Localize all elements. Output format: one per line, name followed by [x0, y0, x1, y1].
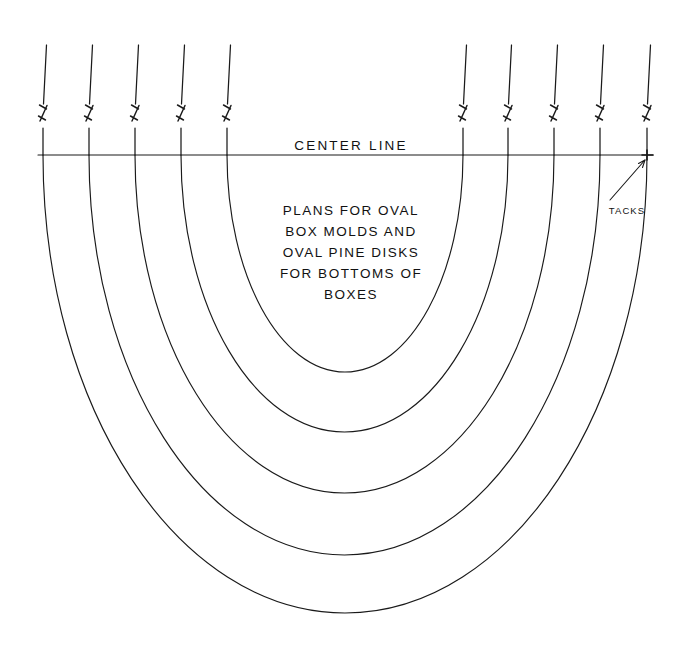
note-line: BOXES [324, 287, 378, 302]
note-line: BOX MOLDS AND [285, 224, 416, 239]
tack-shaft-upper [648, 45, 651, 104]
tacks-leader-line [610, 160, 645, 200]
line-break-symbol-icon [131, 105, 140, 121]
tack-shaft-upper [601, 45, 604, 104]
note-line: OVAL PINE DISKS [283, 245, 420, 260]
tack-marker [643, 45, 652, 155]
line-break-symbol-icon [177, 105, 186, 121]
tack-shaft-upper [464, 45, 467, 104]
tack-shaft-upper [136, 45, 139, 104]
drawing-sheet: CENTER LINE TACKS PLANS FOR OVALBOX MOLD… [0, 0, 689, 646]
line-break-symbol-icon [39, 105, 48, 121]
center-line-label: CENTER LINE [294, 138, 407, 153]
tack-shaft-upper [44, 45, 47, 104]
line-break-symbol-icon [85, 105, 94, 121]
line-break-symbol-icon [223, 105, 232, 121]
tack-marker [596, 45, 605, 155]
line-break-symbol-icon [504, 105, 513, 121]
tack-head-icon [642, 150, 653, 160]
tack-marker [504, 45, 513, 155]
tack-marker [39, 45, 48, 155]
tacks-leader-group [610, 160, 645, 200]
technical-drawing-canvas: CENTER LINE TACKS PLANS FOR OVALBOX MOLD… [0, 0, 689, 646]
arc-1-innermost [227, 155, 463, 372]
tack-shaft-upper [90, 45, 93, 104]
line-break-symbol-icon [643, 105, 652, 121]
tack-shaft-upper [228, 45, 231, 104]
tack-marker [131, 45, 140, 155]
tack-marker [459, 45, 468, 155]
tack-marker [85, 45, 94, 155]
tack-marker [550, 45, 559, 155]
line-break-symbol-icon [550, 105, 559, 121]
title-note-block: PLANS FOR OVALBOX MOLDS ANDOVAL PINE DIS… [280, 203, 422, 302]
tacks-label: TACKS [609, 205, 645, 216]
line-break-symbol-icon [459, 105, 468, 121]
tack-shaft-upper [182, 45, 185, 104]
tack-shaft-upper [555, 45, 558, 104]
note-line: PLANS FOR OVAL [283, 203, 419, 218]
tack-marker [177, 45, 186, 155]
tack-marker [223, 45, 232, 155]
line-break-symbol-icon [596, 105, 605, 121]
tack-shaft-upper [509, 45, 512, 104]
note-line: FOR BOTTOMS OF [280, 266, 422, 281]
